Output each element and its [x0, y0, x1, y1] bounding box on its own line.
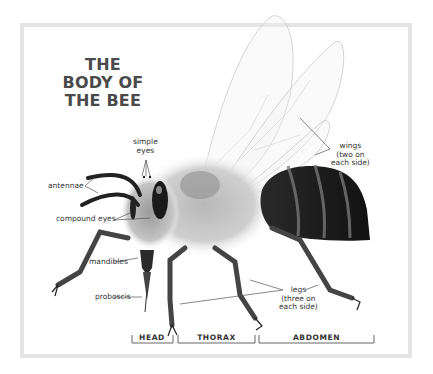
label-simple-eyes: simple eyes: [133, 138, 158, 155]
title-line-3: THE BEE: [62, 92, 144, 110]
label-wings: wings (two on each side): [331, 142, 370, 168]
label-line: each side): [331, 159, 370, 168]
title-line-2: BODY OF: [62, 74, 144, 92]
segment-head: HEAD: [132, 333, 172, 342]
mandibles: [140, 250, 154, 275]
title-line-1: THE: [62, 56, 144, 74]
label-antennae: antennae: [48, 182, 84, 191]
label-mandibles: mandibles: [89, 258, 128, 267]
segment-abdomen: ABDOMEN: [259, 333, 374, 342]
segment-thorax: THORAX: [178, 333, 255, 342]
label-line: each side): [279, 303, 318, 312]
label-proboscis: proboscis: [95, 293, 131, 302]
proboscis: [145, 290, 147, 312]
label-line: eyes: [133, 147, 158, 156]
diagram-title: THE BODY OF THE BEE: [62, 56, 144, 110]
label-legs: legs (three on each side): [279, 286, 318, 312]
label-compound-eyes: compound eyes: [56, 215, 116, 224]
